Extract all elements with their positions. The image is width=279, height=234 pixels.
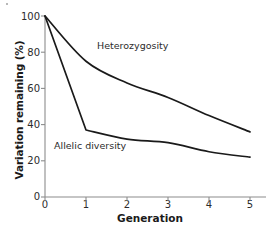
series-line-allelic-diversity: [45, 16, 250, 157]
y-tick-marks: [41, 16, 45, 197]
chart-figure: Variation remaining (%) Generation 0 20 …: [0, 0, 279, 234]
series-line-heterozygosity: [45, 16, 250, 132]
x-tick-marks: [45, 197, 250, 201]
plot-area: [0, 0, 279, 234]
